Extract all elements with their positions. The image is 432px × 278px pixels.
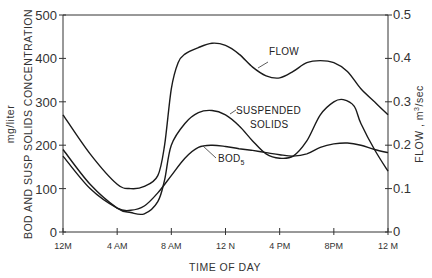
- left-tick-label: 400: [35, 51, 57, 66]
- left-tick-label: 300: [35, 95, 57, 110]
- flow-label: FLOW: [269, 46, 299, 57]
- x-tick-label: 12 M: [378, 241, 398, 251]
- x-tick-label: 8 AM: [161, 241, 182, 251]
- suspended-label-line1: SUSPENDED: [236, 105, 301, 116]
- x-tick-label: 4 AM: [107, 241, 128, 251]
- line-chart: 0100200300400500 00.10.20.30.40.5 12M4 A…: [0, 0, 432, 278]
- left-axis-units: mg/liter: [4, 105, 16, 143]
- left-tick-label: 500: [35, 8, 57, 23]
- bod-leader: [203, 146, 216, 158]
- left-ticks: 0100200300400500: [35, 8, 66, 240]
- flow-leader: [258, 62, 268, 68]
- x-tick-label: 12 N: [216, 241, 235, 251]
- right-axis-title: FLOW , m3/sec: [413, 85, 425, 163]
- suspended-label-line2: SOLIDS: [250, 119, 289, 130]
- flow-curve: [63, 43, 388, 189]
- bod5-label: BOD5: [218, 153, 245, 166]
- x-tick-label: 8PM: [325, 241, 344, 251]
- right-tick-label: 0.3: [393, 94, 411, 109]
- x-tick-label: 4 PM: [269, 241, 290, 251]
- right-tick-label: 0: [393, 224, 400, 239]
- right-tick-label: 0.5: [393, 7, 411, 22]
- right-tick-label: 0.1: [393, 181, 411, 196]
- left-tick-label: 200: [35, 138, 57, 153]
- x-axis-title: TIME OF DAY: [189, 261, 261, 273]
- right-tick-label: 0.4: [393, 50, 411, 65]
- left-tick-label: 100: [35, 182, 57, 197]
- left-axis-title: BOD AND SUSP SOLIDS CONCENTRATION: [22, 9, 34, 239]
- x-tick-label: 12M: [54, 241, 72, 251]
- left-tick-label: 0: [50, 225, 57, 240]
- x-ticks: 12M4 AM8 AM12 N4 PM8PM12 M: [54, 228, 398, 251]
- right-ticks: 00.10.20.30.40.5: [385, 7, 411, 239]
- right-tick-label: 0.2: [393, 137, 411, 152]
